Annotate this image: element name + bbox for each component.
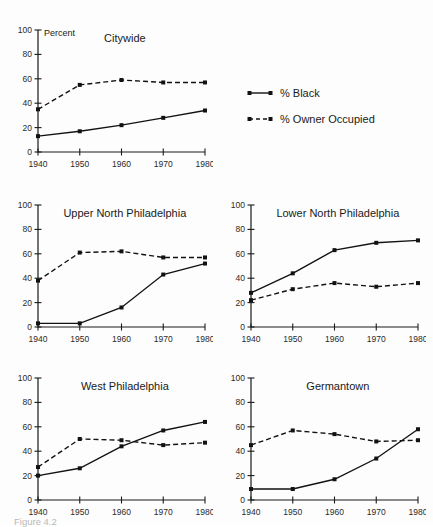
x-tick-label: 1970 — [367, 334, 386, 344]
x-tick-label: 1980 — [196, 159, 213, 169]
y-tick-label: 60 — [23, 249, 33, 259]
x-tick-label: 1960 — [325, 507, 344, 517]
series-owner-occupied — [249, 428, 420, 447]
y-tick-label: 100 — [231, 200, 245, 210]
chart-panel-west-philadelphia: 02040608010019401950196019701980West Phi… — [8, 356, 213, 526]
y-tick-label: 60 — [236, 249, 246, 259]
legend-item-owner-occupied: % Owner Occupied — [247, 112, 427, 126]
legend-label-black: % Black — [280, 87, 320, 99]
panel-title: Germantown — [306, 380, 369, 392]
chart-panel-lower-north-philadelphia: 02040608010019401950196019701980Lower No… — [221, 183, 426, 353]
x-tick-label: 1960 — [325, 334, 344, 344]
y-tick-label: 20 — [23, 471, 33, 481]
x-tick-label: 1950 — [70, 334, 89, 344]
figure-caption: Figure 4.2 — [14, 516, 57, 527]
x-tick-label: 1940 — [242, 334, 261, 344]
legend-swatch-dashed-line-icon — [247, 113, 273, 125]
panel-title: West Philadelphia — [81, 380, 170, 392]
y-tick-label: 0 — [240, 495, 245, 505]
x-tick-label: 1970 — [367, 507, 386, 517]
y-tick-label: 80 — [236, 397, 246, 407]
series-owner-occupied — [249, 281, 420, 302]
series-owner-occupied — [36, 249, 207, 282]
series-black — [36, 109, 207, 139]
y-tick-label: 60 — [23, 422, 33, 432]
y-tick-label: 80 — [23, 224, 33, 234]
y-tick-label: 0 — [27, 495, 32, 505]
y-tick-label: 100 — [18, 200, 32, 210]
series-black — [36, 262, 207, 326]
legend-item-black: % Black — [247, 86, 427, 100]
panel-title: Upper North Philadelphia — [63, 207, 187, 219]
series-black — [249, 238, 420, 294]
x-tick-label: 1980 — [409, 334, 426, 344]
x-tick-label: 1970 — [154, 334, 173, 344]
series-owner-occupied — [36, 78, 207, 111]
panel-title: Lower North Philadelphia — [276, 207, 400, 219]
legend-swatch-solid-line-icon — [247, 87, 273, 99]
y-tick-label: 20 — [23, 298, 33, 308]
chart-panel-citywide: 02040608010019401950196019701980PercentC… — [8, 8, 213, 178]
y-tick-label: 20 — [236, 298, 246, 308]
y-tick-label: 40 — [236, 446, 246, 456]
axes — [251, 378, 418, 500]
y-tick-label: 80 — [23, 49, 33, 59]
legend-label-owner-occupied: % Owner Occupied — [280, 113, 375, 125]
y-tick-label: 100 — [18, 373, 32, 383]
y-tick-label: 40 — [23, 273, 33, 283]
x-tick-label: 1970 — [154, 159, 173, 169]
x-tick-label: 1960 — [112, 507, 131, 517]
y-axis-name: Percent — [44, 28, 76, 38]
chart-legend: % Black % Owner Occupied — [247, 86, 427, 138]
chart-panel-germantown: 02040608010019401950196019701980Germanto… — [221, 356, 426, 526]
y-tick-label: 20 — [236, 471, 246, 481]
series-owner-occupied — [36, 437, 207, 469]
x-tick-label: 1960 — [112, 159, 131, 169]
x-tick-label: 1950 — [70, 507, 89, 517]
chart-panel-upper-north-philadelphia: 02040608010019401950196019701980Upper No… — [8, 183, 213, 353]
y-tick-label: 40 — [23, 446, 33, 456]
y-tick-label: 100 — [18, 25, 32, 35]
x-tick-label: 1960 — [112, 334, 131, 344]
series-black — [36, 420, 207, 478]
x-tick-label: 1940 — [29, 159, 48, 169]
x-tick-label: 1950 — [70, 159, 89, 169]
y-tick-label: 0 — [240, 322, 245, 332]
y-tick-label: 60 — [236, 422, 246, 432]
x-tick-label: 1980 — [409, 507, 426, 517]
x-tick-label: 1970 — [154, 507, 173, 517]
y-tick-label: 0 — [27, 147, 32, 157]
x-tick-label: 1940 — [242, 507, 261, 517]
x-tick-label: 1950 — [283, 507, 302, 517]
panel-title: Citywide — [104, 32, 146, 44]
axes — [251, 205, 418, 327]
y-tick-label: 0 — [27, 322, 32, 332]
y-tick-label: 80 — [236, 224, 246, 234]
y-tick-label: 40 — [23, 98, 33, 108]
y-tick-label: 40 — [236, 273, 246, 283]
x-tick-label: 1980 — [196, 507, 213, 517]
x-tick-label: 1950 — [283, 334, 302, 344]
x-tick-label: 1980 — [196, 334, 213, 344]
x-tick-label: 1940 — [29, 334, 48, 344]
y-tick-label: 20 — [23, 123, 33, 133]
y-tick-label: 100 — [231, 373, 245, 383]
y-tick-label: 60 — [23, 74, 33, 84]
y-tick-label: 80 — [23, 397, 33, 407]
